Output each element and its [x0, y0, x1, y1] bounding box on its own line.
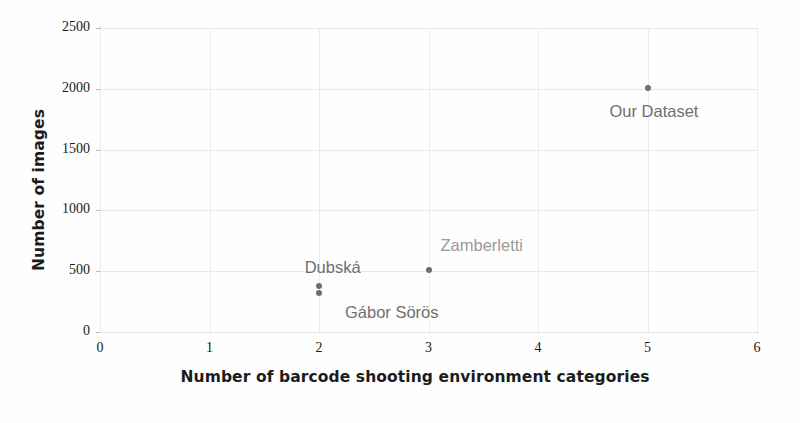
x-tick-label: 1 [195, 340, 225, 356]
x-tick-label: 0 [85, 340, 115, 356]
data-point [316, 290, 322, 296]
y-tick-mark [96, 28, 100, 29]
y-tick-label: 0 [36, 323, 90, 339]
gridline-vertical [648, 28, 649, 332]
plot-area: Gábor SörösZamberlettiOur DatasetDubská [100, 28, 757, 332]
x-axis-title: Number of barcode shooting environment c… [0, 368, 800, 386]
data-point [645, 85, 651, 91]
x-tick-label: 6 [742, 340, 772, 356]
scatter-chart-figure: Number of images Number of barcode shoot… [0, 0, 800, 423]
data-point [426, 267, 432, 273]
y-tick-mark [96, 150, 100, 151]
y-tick-mark [96, 332, 100, 333]
y-axis-title: Number of images [26, 30, 52, 350]
gridline-vertical [538, 28, 539, 332]
y-tick-label: 2500 [36, 19, 90, 35]
x-tick-label: 3 [414, 340, 444, 356]
x-tick-label: 2 [304, 340, 334, 356]
x-tick-label: 4 [523, 340, 553, 356]
gridline-horizontal [100, 332, 757, 333]
gridline-vertical [429, 28, 430, 332]
y-tick-mark [96, 210, 100, 211]
y-tick-label: 1500 [36, 141, 90, 157]
gridline-vertical [100, 28, 101, 332]
gridline-vertical [210, 28, 211, 332]
x-tick-label: 5 [633, 340, 663, 356]
point-label-our-dataset: Our Dataset [610, 102, 699, 121]
y-tick-label: 1000 [36, 201, 90, 217]
gridline-vertical [757, 28, 758, 332]
point-label-zamberletti: Zamberletti [441, 236, 524, 255]
point-label-gábor-sörös: Gábor Sörös [345, 303, 439, 322]
y-tick-mark [96, 89, 100, 90]
y-tick-label: 2000 [36, 80, 90, 96]
y-tick-label: 500 [36, 262, 90, 278]
y-tick-mark [96, 271, 100, 272]
point-label-dubská: Dubská [305, 258, 361, 277]
data-point [316, 283, 322, 289]
